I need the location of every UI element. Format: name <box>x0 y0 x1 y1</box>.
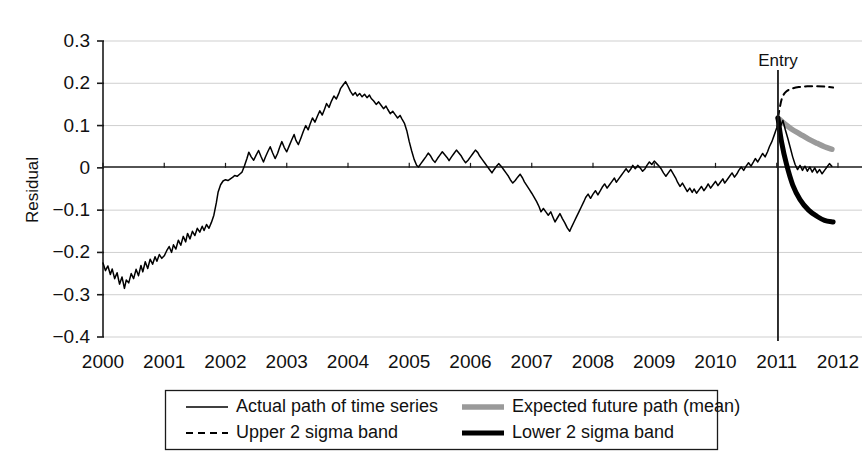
y-axis-tick-label: −0.1 <box>52 199 90 220</box>
y-axis-tick-label: 0.1 <box>64 115 90 136</box>
entry-label: Entry <box>758 51 798 70</box>
series-line <box>778 86 833 118</box>
y-axis-tick-label: −0.3 <box>52 284 90 305</box>
series-upper-2-sigma-band <box>778 86 833 118</box>
y-axis-tick-label: −0.2 <box>52 241 90 262</box>
chart-canvas: 0.30.20.10−0.1−0.2−0.3−0.4 2000200120022… <box>0 0 866 471</box>
x-axis-tick-label: 2009 <box>633 351 675 372</box>
chart-legend: Actual path of time seriesExpected futur… <box>166 391 741 450</box>
x-axis-tick-label: 2000 <box>82 351 124 372</box>
series-line <box>103 82 832 289</box>
gridlines-group <box>103 41 862 337</box>
x-axis-tick-label: 2008 <box>572 351 614 372</box>
x-axis-tick-labels: 2000200120022003200420052006200720082009… <box>82 351 859 372</box>
entry-annotation: Entry <box>758 51 798 341</box>
x-axis-tick-label: 2003 <box>266 351 308 372</box>
y-axis-tick-label: −0.4 <box>52 326 90 347</box>
x-axis-tick-label: 2011 <box>756 351 797 372</box>
y-axis <box>97 41 104 337</box>
y-axis-tick-label: 0.3 <box>64 30 90 51</box>
y-axis-tick-labels: 0.30.20.10−0.1−0.2−0.3−0.4 <box>52 30 90 347</box>
x-axis-tick-label: 2012 <box>817 351 859 372</box>
residual-forecast-figure: 0.30.20.10−0.1−0.2−0.3−0.4 2000200120022… <box>0 0 866 471</box>
series-actual-path <box>103 82 832 289</box>
y-axis-tick-label: 0 <box>79 157 90 178</box>
y-axis-tick-label: 0.2 <box>64 72 90 93</box>
x-axis-tick-label: 2007 <box>511 351 553 372</box>
legend-label: Actual path of time series <box>236 396 438 416</box>
x-axis-tick-label: 2006 <box>449 351 491 372</box>
x-axis-tick-label: 2001 <box>143 351 185 372</box>
y-axis-title: Residual <box>23 157 42 223</box>
legend-label: Upper 2 sigma band <box>236 422 398 442</box>
x-axis-tick-label: 2005 <box>388 351 430 372</box>
x-axis-tick-label: 2002 <box>204 351 246 372</box>
legend-label: Expected future path (mean) <box>512 396 740 416</box>
x-axis-tick-label: 2010 <box>694 351 736 372</box>
legend-label: Lower 2 sigma band <box>512 422 674 442</box>
x-axis-tick-label: 2004 <box>327 351 370 372</box>
